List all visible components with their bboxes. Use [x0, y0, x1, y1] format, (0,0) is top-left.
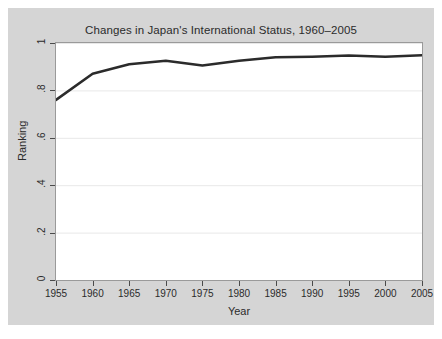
x-tick-label-8: 1995 [329, 288, 369, 299]
plot-area [55, 42, 423, 281]
x-tick-mark-6 [276, 281, 277, 286]
x-tick-mark-3 [166, 281, 167, 286]
x-tick-label-6: 1985 [256, 288, 296, 299]
x-tick-mark-10 [422, 281, 423, 286]
x-tick-mark-8 [349, 281, 350, 286]
x-tick-label-3: 1970 [146, 288, 186, 299]
x-tick-mark-5 [239, 281, 240, 286]
plot-svg [56, 43, 422, 280]
x-tick-label-4: 1975 [182, 288, 222, 299]
x-tick-label-2: 1965 [109, 288, 149, 299]
x-tick-label-9: 2000 [365, 288, 405, 299]
x-tick-mark-7 [312, 281, 313, 286]
x-tick-label-0: 1955 [36, 288, 76, 299]
chart-figure: Changes in Japan's International Status,… [0, 0, 442, 339]
x-tick-label-10: 2005 [402, 288, 442, 299]
data-series-group [56, 55, 422, 100]
x-axis-title: Year [55, 305, 423, 317]
gridlines [56, 44, 422, 281]
x-tick-mark-9 [385, 281, 386, 286]
data-line-0 [56, 55, 422, 100]
x-tick-label-1: 1960 [73, 288, 113, 299]
y-axis-title: Ranking [16, 121, 28, 161]
x-tick-mark-0 [56, 281, 57, 286]
chart-title: Changes in Japan's International Status,… [8, 24, 434, 36]
x-tick-mark-2 [129, 281, 130, 286]
x-tick-mark-4 [202, 281, 203, 286]
x-tick-mark-1 [93, 281, 94, 286]
x-tick-label-5: 1980 [219, 288, 259, 299]
x-tick-label-7: 1990 [292, 288, 332, 299]
